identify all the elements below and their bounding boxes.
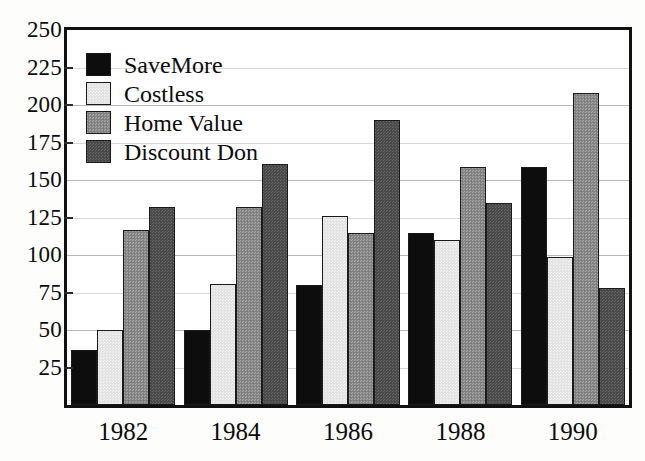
x-tick-label: 1984 [176,418,296,445]
legend-item-discount-don: Discount Don [86,137,258,166]
bar-discount-don-1990 [599,288,625,405]
bar-discount-don-1986 [374,120,400,405]
bar-discount-don-1982 [149,207,175,405]
y-tick-mark [64,367,73,369]
x-tick-label: 1986 [288,418,408,445]
y-tick-label: 225 [4,56,62,79]
y-tick-label: 150 [4,168,62,191]
x-tick-label: 1982 [63,418,183,445]
y-tick-mark [64,292,73,294]
y-tick-label: 200 [4,93,62,116]
y-tick-mark [64,67,73,69]
bar-discount-don-1984 [262,164,288,406]
bar-savemore-1988 [408,233,434,406]
bar-group-1990 [521,30,625,405]
legend-swatch-icon [86,53,111,76]
y-tick-mark [64,104,73,106]
bar-home-value-1984 [236,207,262,405]
legend-item-savemore: SaveMore [86,50,258,79]
y-tick-mark [64,217,73,219]
bar-chart: 255075100125150175200225250 SaveMoreCost… [0,0,645,461]
y-tick-label: 250 [4,18,62,41]
bar-savemore-1986 [296,285,322,405]
bar-home-value-1982 [123,230,149,406]
y-axis: 255075100125150175200225250 [0,0,62,461]
y-tick-label: 100 [4,243,62,266]
bar-home-value-1988 [460,167,486,406]
bar-savemore-1984 [184,330,210,405]
legend-swatch-icon [86,111,111,134]
legend-swatch-icon [86,82,111,105]
bar-home-value-1990 [573,93,599,405]
bar-savemore-1982 [71,350,97,406]
y-tick-mark [64,142,73,144]
y-tick-label: 175 [4,131,62,154]
y-tick-label: 50 [4,318,62,341]
legend-label: SaveMore [124,53,223,77]
x-tick-label: 1988 [400,418,520,445]
bar-costless-1982 [97,330,123,405]
bar-group-1988 [408,30,512,405]
bar-costless-1984 [210,284,236,406]
bar-costless-1986 [322,216,348,405]
bar-costless-1990 [547,257,573,406]
legend-label: Discount Don [124,140,258,164]
bar-discount-don-1988 [486,203,512,406]
bar-savemore-1990 [521,167,547,406]
y-tick-label: 25 [4,356,62,379]
bar-costless-1988 [434,240,460,405]
legend: SaveMoreCostlessHome ValueDiscount Don [86,50,258,166]
legend-item-costless: Costless [86,79,258,108]
y-tick-label: 75 [4,281,62,304]
legend-swatch-icon [86,140,111,163]
legend-item-home-value: Home Value [86,108,258,137]
bar-home-value-1986 [348,233,374,406]
bar-group-1986 [296,30,400,405]
y-tick-label: 125 [4,206,62,229]
legend-label: Home Value [124,111,243,135]
legend-label: Costless [124,82,204,106]
x-tick-label: 1990 [513,418,633,445]
